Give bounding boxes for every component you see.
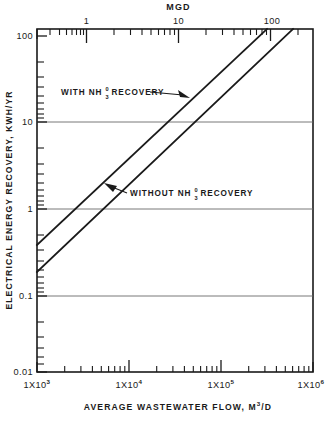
annotation-with-arrow-icon <box>178 90 190 98</box>
top-tick-label-10: 10 <box>173 16 184 26</box>
plot-frame <box>37 29 313 372</box>
x-tick-label-1e5: 1X105 <box>208 378 235 390</box>
y-tick-label-0-1: 0.1 <box>19 291 33 301</box>
y-axis-ticks <box>37 36 47 372</box>
top-axis-title-mgd: MGD <box>166 2 191 12</box>
x-tick-label-1e6: 1X106 <box>298 378 325 390</box>
y-tick-label-100: 100 <box>16 31 33 41</box>
top-tick-label-1: 1 <box>84 16 90 26</box>
annotation-without-nh3-recovery-label: WITHOUT NH 03RECOVERY <box>130 187 253 201</box>
x-tick-labels: 1X103 1X104 1X105 1X106 <box>24 378 325 390</box>
chart-svg: 100 10 1 0.1 0.01 <box>0 0 336 428</box>
x-axis-ticks <box>37 360 313 372</box>
series-line-without-nh3-recovery <box>37 29 293 272</box>
y-tick-labels: 100 10 1 0.1 0.01 <box>14 31 33 377</box>
top-tick-label-100: 100 <box>264 16 281 26</box>
annotation-without-arrow-icon <box>104 183 117 192</box>
annotation-without-nh3-recovery: WITHOUT NH 03RECOVERY <box>104 183 253 201</box>
annotation-with-nh3-recovery: WITH NH 03RECOVERY <box>61 86 190 100</box>
axis-titles: AVERAGE WASTEWATER FLOW, M3/D ELECTRICAL… <box>4 90 272 412</box>
top-tick-labels: 1 10 100 MGD <box>84 2 281 26</box>
y-tick-label-0-01: 0.01 <box>14 367 33 377</box>
chart-figure: 100 10 1 0.1 0.01 <box>0 0 336 428</box>
annotation-with-nh3-recovery-label: WITH NH 03RECOVERY <box>61 86 164 100</box>
x-tick-label-1e3: 1X103 <box>24 378 51 390</box>
x-axis-title: AVERAGE WASTEWATER FLOW, M3/D <box>84 400 272 412</box>
y-tick-label-10: 10 <box>22 117 33 127</box>
series-line-with-nh3-recovery <box>37 29 267 245</box>
gridlines-horizontal <box>37 122 313 296</box>
y-axis-title: ELECTRICAL ENERGY RECOVERY, KWH/YR <box>4 90 14 309</box>
data-series <box>37 29 293 272</box>
y-tick-label-1: 1 <box>27 204 33 214</box>
x-tick-label-1e4: 1X104 <box>116 378 143 390</box>
